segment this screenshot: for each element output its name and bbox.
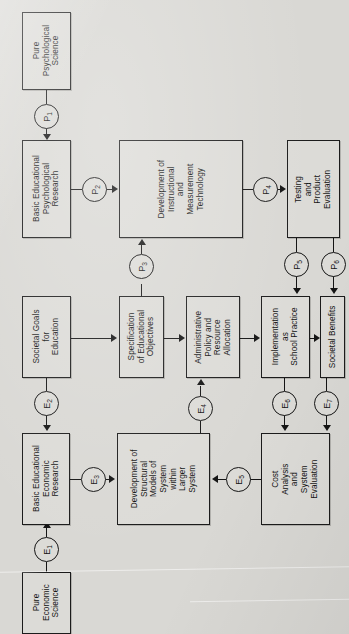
edge-label-p1[interactable]: P1 xyxy=(34,104,59,129)
node-label: Pure Economic Science xyxy=(32,585,61,622)
edge-arrow-goals-spec xyxy=(111,334,117,342)
node-specification-of-educational-objectives[interactable]: Specification of Educational Objectives xyxy=(119,296,164,378)
scan-artifact-line-2 xyxy=(190,599,349,603)
edge-line-e6-a xyxy=(284,378,286,391)
edge-arrow-e3 xyxy=(109,475,115,483)
edge-arrow-p2 xyxy=(112,185,118,193)
node-societal-benefits[interactable]: Societal Benefits xyxy=(320,296,345,378)
edge-line-e4-a xyxy=(200,421,202,433)
edge-line-admin-impl xyxy=(240,338,255,340)
edge-arrow-e4 xyxy=(197,379,205,385)
diagram-canvas: Pure Psychological Science Basic Educati… xyxy=(0,0,349,634)
edge-label-e4[interactable]: E4 xyxy=(188,396,213,421)
edge-label-text: P4 xyxy=(261,185,271,195)
edge-label-text: P6 xyxy=(329,260,339,270)
node-label: Basic Educational Economic Research xyxy=(32,446,61,513)
edge-line-p3-b xyxy=(141,245,143,254)
node-basic-educational-psychological-research[interactable]: Basic Educational Psychological Research xyxy=(22,140,71,238)
edge-arrow-spec-admin xyxy=(179,334,185,342)
edge-label-e1[interactable]: E1 xyxy=(34,537,59,562)
node-label: Development of Instructional and Measure… xyxy=(157,160,205,219)
node-pure-economic-science[interactable]: Pure Economic Science xyxy=(22,572,71,634)
node-label: Administrative Policy and Resource Alloc… xyxy=(194,311,233,364)
edge-label-e3[interactable]: E3 xyxy=(81,467,106,492)
edge-line-e1-a xyxy=(46,562,48,572)
edge-label-text: P5 xyxy=(292,260,302,270)
edge-label-p6[interactable]: P6 xyxy=(321,252,346,277)
edge-line-spec-admin xyxy=(164,338,180,340)
edge-label-e2[interactable]: E2 xyxy=(34,391,59,416)
edge-line-e3-a xyxy=(70,479,81,481)
node-label: Testing and Product Evaluation xyxy=(294,169,333,208)
edge-arrow-p5 xyxy=(293,288,301,294)
node-development-of-instructional-and-measurement-technology[interactable]: Development of Instructional and Measure… xyxy=(119,140,243,238)
edge-arrow-p6 xyxy=(330,288,338,294)
edge-arrow-e5 xyxy=(212,475,218,483)
edge-label-text: E4 xyxy=(196,404,206,414)
edge-line-p3-a xyxy=(141,284,143,296)
edge-line-p5-b xyxy=(296,275,298,289)
edge-label-e7[interactable]: E7 xyxy=(314,391,339,416)
edge-label-e6[interactable]: E6 xyxy=(272,391,297,416)
edge-label-text: E6 xyxy=(280,399,290,409)
edge-line-e5-b xyxy=(218,479,226,481)
edge-line-p6-b xyxy=(333,275,335,289)
edge-label-text: P3 xyxy=(137,262,147,272)
edge-label-p5[interactable]: P5 xyxy=(284,252,309,277)
node-label: Societal Goals for Education xyxy=(32,310,61,364)
edge-label-text: P2 xyxy=(90,185,100,195)
edge-arrow-p4 xyxy=(280,185,286,193)
node-label: Societal Benefits xyxy=(328,306,338,369)
edge-label-p3[interactable]: P3 xyxy=(129,254,154,279)
edge-label-text: E2 xyxy=(42,399,52,409)
edge-label-p2[interactable]: P2 xyxy=(82,177,107,202)
edge-label-e5[interactable]: E5 xyxy=(226,467,251,492)
edge-line-goals-spec xyxy=(71,338,112,340)
edge-label-text: E7 xyxy=(322,399,332,409)
edge-line-e1-b xyxy=(46,528,48,537)
edge-arrow-e7 xyxy=(323,425,331,431)
edge-arrow-admin-impl xyxy=(254,334,260,342)
edge-line-p5-a xyxy=(296,238,298,252)
edge-arrow-e6 xyxy=(281,425,289,431)
edge-line-e7-a xyxy=(326,378,328,391)
node-label: Pure Psychological Science xyxy=(32,25,61,76)
edge-label-text: E5 xyxy=(234,475,244,485)
edge-line-e4-b xyxy=(200,386,202,396)
edge-line-p1-a xyxy=(46,90,48,104)
node-label: Implementation as School Practice xyxy=(271,308,300,366)
node-societal-goals-for-education[interactable]: Societal Goals for Education xyxy=(22,296,71,378)
node-testing-and-product-evaluation[interactable]: Testing and Product Evaluation xyxy=(287,140,340,238)
edge-line-p4-a xyxy=(243,189,253,191)
node-development-of-structural-models-of-system-within-larger-system[interactable]: Development of Structural Models of Syst… xyxy=(117,433,210,525)
edge-arrow-p3 xyxy=(138,239,146,245)
edge-line-e2-a xyxy=(46,378,48,391)
node-administrative-policy-and-resource-allocation[interactable]: Administrative Policy and Resource Alloc… xyxy=(186,296,240,378)
edge-arrow-e2 xyxy=(43,425,51,431)
edge-label-p4[interactable]: P4 xyxy=(253,177,278,202)
edge-line-p6-a xyxy=(333,238,335,252)
node-label: Cost Analysis and System Evaluation xyxy=(271,459,319,498)
node-basic-educational-economic-research[interactable]: Basic Educational Economic Research xyxy=(22,433,70,525)
node-implementation-as-school-practice[interactable]: Implementation as School Practice xyxy=(261,296,310,378)
edge-label-text: E1 xyxy=(42,545,52,555)
edge-label-text: E3 xyxy=(89,475,99,485)
edge-label-text: P1 xyxy=(42,112,52,122)
node-cost-analysis-and-system-evaluation[interactable]: Cost Analysis and System Evaluation xyxy=(261,433,330,525)
node-label: Basic Educational Psychological Research xyxy=(32,156,61,223)
node-label: Specification of Educational Objectives xyxy=(127,310,156,363)
node-label: Development of Structural Models of Syst… xyxy=(130,450,198,509)
edge-line-p2-a xyxy=(71,189,82,191)
node-pure-psychological-science[interactable]: Pure Psychological Science xyxy=(22,12,71,90)
